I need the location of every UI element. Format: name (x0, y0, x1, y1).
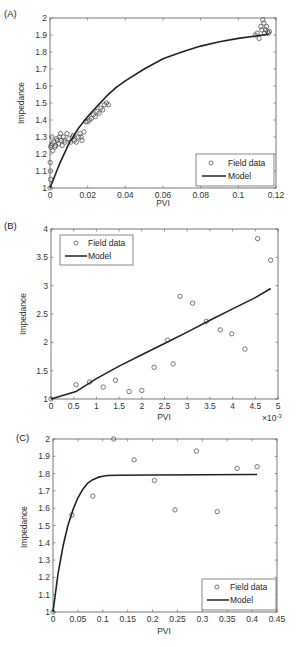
data-point (127, 389, 131, 393)
data-point (194, 449, 198, 453)
legend-field-data: Field data (88, 238, 126, 248)
x-tick-label: 0.02 (79, 190, 96, 200)
legend: Field data Model (202, 579, 276, 610)
y-tick-label: 1.1 (35, 166, 47, 176)
data-point (152, 365, 156, 369)
y-tick-label: 2 (43, 337, 48, 347)
x-tick-label: 2.5 (159, 401, 171, 411)
data-point (255, 236, 259, 240)
chart-panel-a: (A) PVI Impedance 00.020.040.060.080.10.… (4, 8, 285, 208)
x-tick-label: 5 (276, 401, 281, 411)
data-point (218, 328, 222, 332)
legend-field-data: Field data (228, 158, 266, 168)
y-tick-label: 2.5 (36, 309, 48, 319)
data-point (215, 510, 219, 514)
x-tick-label: 0.04 (117, 190, 134, 200)
y-tick-label: 1.6 (35, 81, 47, 91)
data-point (82, 130, 86, 134)
figure: (A) PVI Impedance 00.020.040.060.080.10.… (0, 0, 298, 647)
x-tick-label: 0 (49, 401, 54, 411)
y-tick-label: 1 (43, 394, 48, 404)
x-tick-label: 0.08 (192, 190, 209, 200)
y-axis-label: Impedance (18, 293, 28, 335)
data-point (113, 378, 117, 382)
x-tick-label: 0.5 (68, 401, 80, 411)
y-tick-label: 1.8 (35, 47, 47, 57)
legend: Field data Model (60, 235, 133, 265)
x-tick-label: 4 (230, 401, 235, 411)
x-axis-label: PVI (157, 626, 171, 636)
data-point (243, 347, 247, 351)
x-tick-label: 0 (48, 190, 53, 200)
data-point (230, 332, 234, 336)
data-point (65, 131, 69, 135)
panel-label: (A) (4, 8, 17, 19)
x-tick-label: 0.12 (268, 190, 285, 200)
y-tick-label: 2 (45, 434, 50, 444)
data-point (178, 294, 182, 298)
data-point (101, 385, 105, 389)
x-tick-label: 2 (139, 401, 144, 411)
y-tick-label: 1.6 (38, 503, 50, 513)
data-point (257, 36, 261, 40)
legend: Field data Model (196, 154, 274, 186)
data-point (235, 466, 239, 470)
model-line (51, 289, 271, 400)
x-axis-label: PVI (157, 412, 171, 422)
x-tick-label: 0.1 (232, 190, 244, 200)
x-tick-label: 0.25 (169, 614, 186, 624)
x-tick-label: 3.5 (204, 401, 216, 411)
x-tick-label: 0.15 (119, 614, 136, 624)
y-axis-label: Impedance (16, 82, 26, 124)
y-tick-label: 1.8 (38, 469, 50, 479)
y-tick-label: 1.4 (35, 115, 47, 125)
x-tick-label: 4.5 (249, 401, 261, 411)
y-tick-label: 1.9 (38, 451, 50, 461)
legend-model: Model (230, 595, 253, 605)
x-tick-label: 3 (185, 401, 190, 411)
y-tick-label: 1.7 (38, 486, 50, 496)
chart-panel-c: (C) PVI Impedance 00.050.10.150.20.250.3… (16, 432, 286, 636)
y-tick-label: 1.7 (35, 64, 47, 74)
x-axis-exponent: ×10-3 (262, 413, 282, 423)
data-point (255, 465, 259, 469)
y-tick-label: 1.5 (35, 98, 47, 108)
x-tick-label: 0.45 (269, 614, 286, 624)
y-tick-label: 1.2 (35, 149, 47, 159)
legend-model: Model (88, 251, 111, 261)
y-tick-label: 1.5 (38, 521, 50, 531)
data-point (91, 494, 95, 498)
y-tick-label: 1.3 (35, 132, 47, 142)
x-tick-label: 0.4 (246, 614, 258, 624)
x-tick-label: 0.35 (219, 614, 236, 624)
x-tick-label: 0 (51, 614, 56, 624)
x-tick-label: 0.1 (97, 614, 109, 624)
y-tick-label: 1.1 (38, 590, 50, 600)
y-tick-label: 1.9 (35, 30, 47, 40)
y-tick-label: 1.5 (36, 366, 48, 376)
y-tick-label: 4 (43, 224, 48, 234)
x-tick-label: 0.05 (70, 614, 87, 624)
x-tick-label: 1 (94, 401, 99, 411)
x-tick-label: 0.06 (155, 190, 172, 200)
y-tick-label: 1.2 (38, 572, 50, 582)
data-point (132, 458, 136, 462)
y-axis-label: Impedance (19, 506, 29, 548)
panel-label: (B) (4, 220, 17, 231)
y-tick-label: 1.3 (38, 555, 50, 565)
data-point (171, 362, 175, 366)
y-tick-label: 1 (45, 607, 50, 617)
legend-field-data: Field data (230, 582, 268, 592)
y-tick-label: 3 (43, 281, 48, 291)
x-tick-label: 0.2 (147, 614, 159, 624)
x-tick-label: 0.3 (196, 614, 208, 624)
y-tick-label: 3.5 (36, 252, 48, 262)
data-point (173, 508, 177, 512)
y-tick-label: 2 (42, 13, 47, 23)
data-point (269, 258, 273, 262)
data-point (74, 383, 78, 387)
chart-panel-b: (B) PVI Impedance ×10-3 00.511.522.533.5… (4, 220, 282, 423)
panel-label: (C) (16, 432, 29, 443)
data-point (140, 388, 144, 392)
data-point (190, 301, 194, 305)
